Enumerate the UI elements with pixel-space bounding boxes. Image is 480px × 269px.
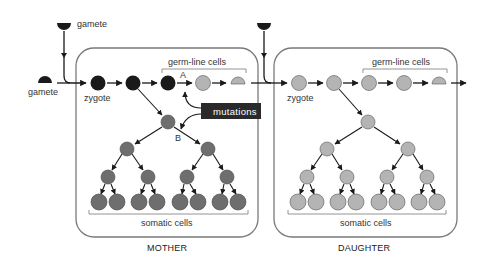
mother-somatic-label: somatic cells [141, 218, 193, 228]
mother-germline-bracket [162, 69, 246, 73]
daughter-somatic-tree [300, 89, 435, 194]
daughter-zygote-label: zygote [287, 93, 314, 103]
mother-title: MOTHER [147, 243, 187, 253]
daughter-germline-bracket [363, 69, 447, 73]
arrowhead-icon [61, 53, 67, 58]
mother-zygote-label: zygote [84, 93, 111, 103]
daughter-title: DAUGHTER [338, 243, 390, 253]
mother-somatic-bracket [89, 210, 248, 214]
mutations-label: mutations [213, 106, 257, 117]
mother-gamete-out-icon [231, 77, 245, 84]
gamete-daughter-path [264, 31, 271, 83]
mother-germline-cell [126, 76, 141, 91]
daughter-germline-cell [397, 76, 412, 91]
mutation-arrow-a [185, 92, 201, 108]
gamete-daughter-icon [257, 23, 271, 30]
mother-germline-cell [161, 76, 176, 91]
mother-germline-cell [196, 76, 211, 91]
daughter-germline-label: germ-line cells [372, 57, 431, 67]
gamete-left-icon [38, 76, 52, 83]
gamete-top-label: gamete [77, 19, 107, 29]
daughter-zygote-cell [292, 76, 307, 91]
mother-zygote-cell [91, 76, 106, 91]
gamete-top-path [64, 31, 86, 83]
mother-somatic-cells [91, 115, 246, 210]
daughter-germline-cell [327, 76, 342, 91]
daughter-gamete-out-icon [432, 77, 446, 84]
arrowhead-icon [261, 53, 267, 58]
germline-somatic-diagram: gamete gamete zygote A germ-line cells m… [0, 0, 480, 269]
mother-germline-label: germ-line cells [168, 57, 227, 67]
gamete-left-label: gamete [28, 87, 58, 97]
daughter-germline-cell [362, 76, 377, 91]
point-a-label: A [180, 70, 186, 80]
daughter-somatic-cells [290, 115, 445, 210]
daughter-somatic-label: somatic cells [340, 218, 392, 228]
gamete-top-icon [57, 23, 71, 30]
mutation-arrow-b [181, 114, 201, 129]
daughter-somatic-bracket [288, 210, 446, 214]
point-b-label: B [175, 133, 181, 143]
